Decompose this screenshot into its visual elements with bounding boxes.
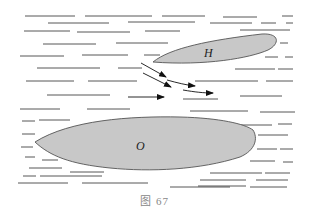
flow-arrow xyxy=(167,80,195,86)
ship-h-label: H xyxy=(204,46,213,61)
flow-arrow xyxy=(143,73,171,87)
flow-arrow xyxy=(183,90,213,93)
ship-o-hull xyxy=(35,117,255,170)
figure-caption: 图 67 xyxy=(0,192,309,208)
ship-h xyxy=(153,34,276,63)
flow-arrow xyxy=(141,63,166,77)
ship-h-hull xyxy=(153,34,276,63)
ship-o-label: O xyxy=(136,139,145,154)
ship-o xyxy=(35,117,255,170)
diagram-canvas xyxy=(0,0,309,217)
